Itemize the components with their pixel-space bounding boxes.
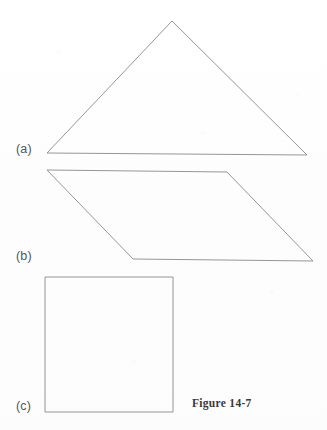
part-label-b: (b) [16,249,32,263]
part-label-a: (a) [16,142,32,156]
figure-caption: Figure 14-7 [192,397,252,409]
square-shape [45,277,173,412]
triangle-shape [47,21,307,155]
parallelogram-shape [47,170,313,261]
figure-drawing-canvas [0,0,327,430]
part-label-c: (c) [16,399,31,413]
figure-page: (a) (b) (c) Figure 14-7 [0,0,327,430]
